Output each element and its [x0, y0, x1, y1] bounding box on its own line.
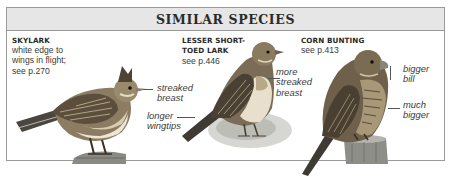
- annotation-line: bill: [403, 74, 429, 84]
- annotation-longer-wingtips: longer wingtips: [147, 111, 181, 132]
- skylark-illustration-icon: [14, 40, 154, 170]
- panel-header: SIMILAR SPECIES: [7, 8, 444, 31]
- annotation-bigger-bill: bigger bill: [403, 64, 429, 85]
- leader-line: [390, 66, 391, 80]
- leader-line: [388, 108, 400, 109]
- panel-title: SIMILAR SPECIES: [156, 12, 295, 27]
- leader-line: [143, 89, 153, 90]
- annotation-much-bigger: much bigger: [403, 100, 429, 121]
- annotation-line: wingtips: [147, 121, 181, 131]
- annotation-line: bigger: [403, 110, 429, 120]
